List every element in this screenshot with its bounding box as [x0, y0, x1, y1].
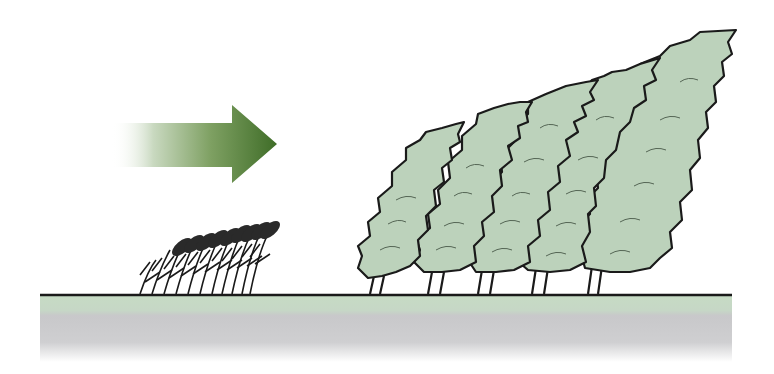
wind-arrow-icon: [112, 105, 277, 183]
wind-illustration: [0, 0, 774, 374]
wheat-heads: [169, 218, 283, 260]
trees: [358, 30, 736, 294]
ground: [40, 295, 732, 362]
